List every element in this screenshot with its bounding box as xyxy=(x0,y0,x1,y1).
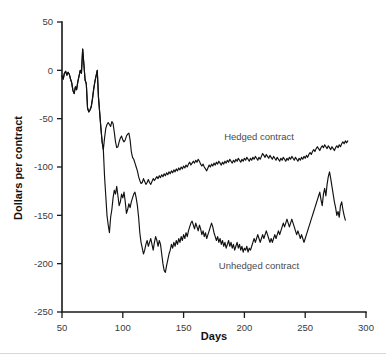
x-tick-label: 250 xyxy=(297,322,313,333)
x-tick-label: 150 xyxy=(176,322,192,333)
y-tick-label: -200 xyxy=(34,258,53,269)
series-label-unhedged: Unhedged contract xyxy=(219,260,300,271)
y-tick-label: -100 xyxy=(34,161,53,172)
y-tick-label: -50 xyxy=(39,113,53,124)
y-axis-title: Dollars per contract xyxy=(12,116,24,220)
series-label-hedged: Hedged contract xyxy=(224,131,294,142)
y-tick-label: -250 xyxy=(34,306,53,317)
y-tick-label: -150 xyxy=(34,210,53,221)
x-tick-label: 300 xyxy=(358,322,374,333)
x-tick-label: 200 xyxy=(236,322,252,333)
y-tick-label: 50 xyxy=(42,16,53,27)
chart-container: 500-50-100-150-200-250 50100150200250300… xyxy=(0,0,386,357)
x-tick-label: 50 xyxy=(57,322,68,333)
x-tick-label: 100 xyxy=(115,322,131,333)
y-tick-label: 0 xyxy=(48,65,53,76)
line-chart: 500-50-100-150-200-250 50100150200250300… xyxy=(0,0,386,357)
x-axis-title: Days xyxy=(201,330,227,342)
